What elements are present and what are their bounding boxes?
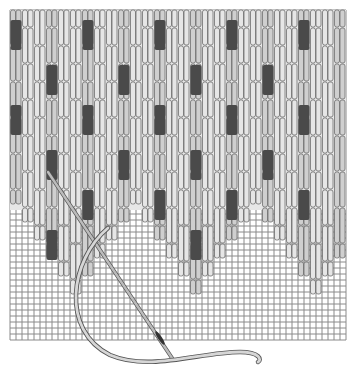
needlepoint-illustration: needlepoint stitch illustration [0,0,356,372]
illustration-canvas [0,0,356,372]
